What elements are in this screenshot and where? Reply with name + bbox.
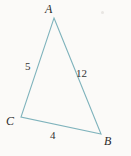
side-length-label-ab: 12 xyxy=(76,68,87,79)
vertex-label-a: A xyxy=(45,3,52,15)
side-length-label-ac: 5 xyxy=(25,61,31,72)
vertex-label-c: C xyxy=(6,115,14,127)
geometry-figure: A B C 5 12 4 xyxy=(0,0,131,156)
side-length-label-cb: 4 xyxy=(50,130,56,141)
scan-artifact-speck xyxy=(101,11,104,14)
vertex-label-b: B xyxy=(104,135,111,147)
triangle-outline xyxy=(21,18,101,134)
triangle-shape xyxy=(0,0,131,156)
